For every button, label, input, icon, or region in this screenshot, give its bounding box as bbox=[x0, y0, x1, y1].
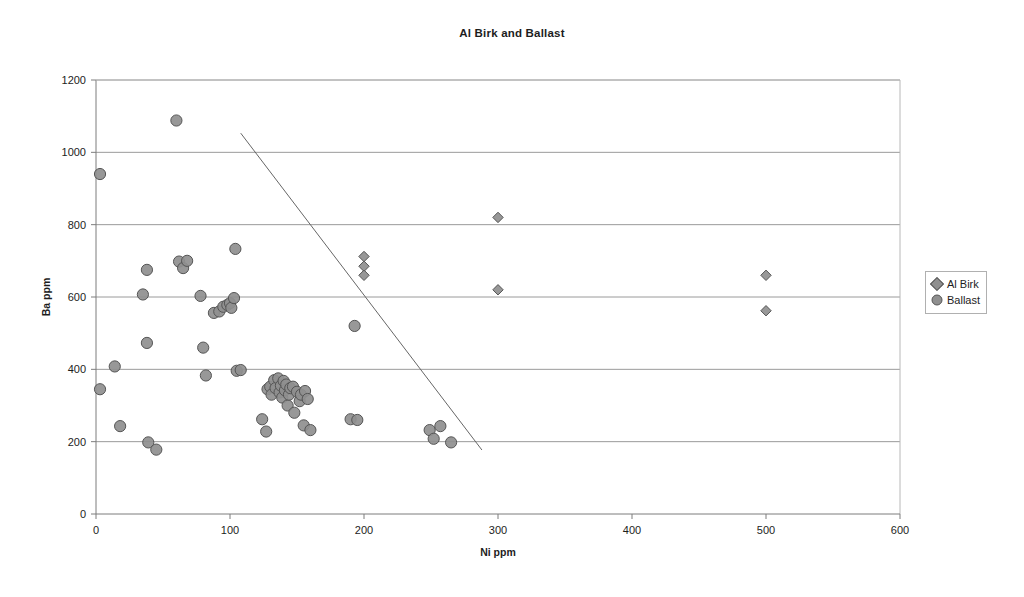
data-point-ballast bbox=[446, 437, 457, 448]
circle-marker-icon bbox=[931, 294, 943, 306]
data-point-al-birk bbox=[493, 212, 503, 222]
data-point-ballast bbox=[349, 320, 360, 331]
data-point-ballast bbox=[289, 407, 300, 418]
legend-label-ballast: Ballast bbox=[947, 294, 980, 307]
x-axis-title: Ni ppm bbox=[480, 546, 516, 558]
data-point-ballast bbox=[228, 292, 239, 303]
y-tick-label: 600 bbox=[68, 291, 86, 303]
data-point-ballast bbox=[141, 337, 152, 348]
data-point-ballast bbox=[115, 421, 126, 432]
data-point-ballast bbox=[302, 393, 313, 404]
plot-canvas: 0100200300400500600 02004006008001000120… bbox=[0, 0, 1024, 597]
x-tick-label: 100 bbox=[221, 524, 239, 536]
data-point-al-birk bbox=[493, 285, 503, 295]
data-point-ballast bbox=[151, 444, 162, 455]
y-axis-title: Ba ppm bbox=[40, 278, 52, 317]
data-point-ballast bbox=[171, 115, 182, 126]
data-point-ballast bbox=[352, 414, 363, 425]
y-tick-labels-group: 020040060080010001200 bbox=[62, 74, 96, 520]
gridlines-group bbox=[96, 80, 900, 442]
x-tick-label: 400 bbox=[623, 524, 641, 536]
data-point-ballast bbox=[428, 433, 439, 444]
data-point-ballast bbox=[200, 370, 211, 381]
data-point-ballast bbox=[109, 361, 120, 372]
data-point-ballast bbox=[94, 168, 105, 179]
diamond-marker-icon bbox=[931, 278, 943, 290]
data-point-ballast bbox=[141, 264, 152, 275]
y-tick-label: 1000 bbox=[62, 146, 86, 158]
data-point-ballast bbox=[235, 364, 246, 375]
x-tick-label: 500 bbox=[757, 524, 775, 536]
series-ballast-points bbox=[94, 115, 456, 455]
data-point-ballast bbox=[94, 384, 105, 395]
chart-legend: Al Birk Ballast bbox=[925, 271, 987, 314]
y-tick-label: 1200 bbox=[62, 74, 86, 86]
data-point-ballast bbox=[137, 289, 148, 300]
x-tick-label: 200 bbox=[355, 524, 373, 536]
data-point-al-birk bbox=[359, 251, 369, 261]
annotations-group bbox=[241, 133, 482, 450]
legend-item-al-birk: Al Birk bbox=[931, 276, 980, 292]
x-tick-label: 600 bbox=[891, 524, 909, 536]
x-tick-labels-group: 0100200300400500600 bbox=[93, 514, 909, 536]
y-tick-label: 0 bbox=[80, 508, 86, 520]
boundary-line bbox=[241, 133, 482, 450]
data-point-ballast bbox=[257, 414, 268, 425]
legend-label-al-birk: Al Birk bbox=[947, 278, 979, 291]
x-tick-label: 0 bbox=[93, 524, 99, 536]
legend-item-ballast: Ballast bbox=[931, 292, 980, 308]
y-tick-label: 800 bbox=[68, 219, 86, 231]
data-point-al-birk bbox=[761, 306, 771, 316]
data-point-al-birk bbox=[359, 270, 369, 280]
y-tick-label: 400 bbox=[68, 363, 86, 375]
data-point-ballast bbox=[195, 290, 206, 301]
data-point-ballast bbox=[435, 421, 446, 432]
x-tick-label: 300 bbox=[489, 524, 507, 536]
y-tick-label: 200 bbox=[68, 436, 86, 448]
series-al-birk-points bbox=[359, 212, 771, 316]
data-point-al-birk bbox=[761, 270, 771, 280]
data-point-ballast bbox=[182, 255, 193, 266]
data-point-ballast bbox=[230, 243, 241, 254]
scatter-chart: Al Birk and Ballast 0100200300400500600 … bbox=[0, 0, 1024, 597]
data-point-ballast bbox=[261, 426, 272, 437]
data-point-ballast bbox=[198, 342, 209, 353]
data-point-ballast bbox=[305, 424, 316, 435]
